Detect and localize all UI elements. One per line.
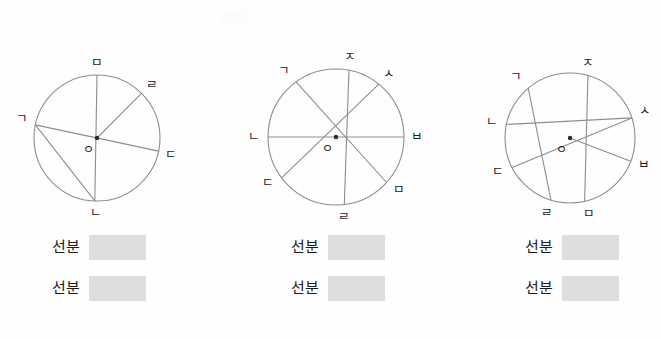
segment-ㄱ-ㄹ: [528, 88, 551, 200]
answer-row: 선분: [52, 275, 146, 301]
circle-figure-2: ㅇㅈㅅㄱㄴㅂㄷㅁㄹ: [239, 40, 439, 225]
answer-input-box[interactable]: [328, 235, 385, 260]
point-label-ㅂ: ㅂ: [411, 130, 423, 144]
answer-label: 선분: [525, 240, 553, 255]
center-label: ㅇ: [322, 142, 333, 156]
point-label-ㄱ: ㄱ: [510, 70, 522, 84]
point-label-ㄷ: ㄷ: [262, 176, 274, 190]
answer-input-box[interactable]: [328, 276, 385, 301]
answer-input-box[interactable]: [89, 276, 146, 301]
point-label-ㅁ: ㅁ: [583, 207, 595, 221]
segment-ㄱ-ㄴ: [35, 125, 94, 201]
point-label-ㄷ: ㄷ: [492, 165, 504, 179]
answer-row: 선분: [291, 234, 385, 260]
point-label-ㅁ: ㅁ: [91, 56, 103, 70]
point-label-ㄴ: ㄴ: [486, 115, 498, 129]
figure-row: ㅇㅁㄹㄱㄷㄴㅇㅈㅅㄱㄴㅂㄷㅁㄹㅇㅈㄱㅅㄴㄷㅂㄹㅁ: [0, 0, 661, 225]
answer-input-box[interactable]: [562, 235, 619, 260]
point-label-ㅅ: ㅅ: [639, 104, 651, 118]
point-label-ㄹ: ㄹ: [338, 210, 350, 224]
point-label-ㄱ: ㄱ: [278, 64, 290, 78]
center-point-dot: [95, 136, 99, 140]
worksheet-canvas: ㅇㅁㄹㄱㄷㄴㅇㅈㅅㄱㄴㅂㄷㅁㄹㅇㅈㄱㅅㄴㄷㅂㄹㅁ 선분선분선분선분선분선분: [0, 0, 661, 339]
answer-row: 선분: [525, 275, 619, 301]
answer-input-box[interactable]: [562, 276, 619, 301]
answer-label: 선분: [52, 240, 80, 255]
segment-ㄷ-ㅅ: [512, 118, 632, 168]
answers-row: 선분선분선분선분선분선분: [0, 225, 661, 339]
point-label-ㅈ: ㅈ: [582, 56, 594, 70]
segment-ㅇ-ㅂ: [570, 138, 631, 161]
center-label: ㅇ: [83, 143, 94, 157]
circle-diagram-3: ㅇㅈㄱㅅㄴㄷㅂㄹㅁ: [473, 40, 661, 225]
center-point-dot: [334, 135, 338, 139]
point-label-ㄴ: ㄴ: [248, 130, 260, 144]
segment-ㄹ-ㅇ: [97, 93, 142, 138]
point-label-ㄹ: ㄹ: [146, 78, 158, 92]
center-point-dot: [568, 136, 572, 140]
segment-ㅈ-ㅁ: [585, 76, 588, 202]
circle-diagram-1: ㅇㅁㄹㄱㄷㄴ: [0, 40, 200, 225]
answer-label: 선분: [52, 281, 80, 296]
point-label-ㅈ: ㅈ: [344, 50, 356, 64]
segment-ㄱ-ㅁ: [296, 82, 387, 183]
point-label-ㄷ: ㄷ: [165, 148, 177, 162]
answer-label: 선분: [291, 240, 319, 255]
point-label-ㄱ: ㄱ: [16, 112, 28, 126]
answer-label: 선분: [291, 281, 319, 296]
circle-diagram-2: ㅇㅈㅅㄱㄴㅂㄷㅁㄹ: [239, 40, 439, 225]
segment-ㄷ-ㅅ: [282, 84, 379, 178]
circle-figure-3: ㅇㅈㄱㅅㄴㄷㅂㄹㅁ: [473, 40, 661, 225]
answer-label: 선분: [525, 281, 553, 296]
answer-row: 선분: [525, 234, 619, 260]
point-label-ㄴ: ㄴ: [90, 206, 102, 220]
circle-figure-1: ㅇㅁㄹㄱㄷㄴ: [0, 40, 200, 225]
center-label: ㅇ: [556, 143, 567, 157]
point-label-ㅂ: ㅂ: [638, 158, 650, 172]
answer-row: 선분: [291, 275, 385, 301]
point-label-ㅅ: ㅅ: [383, 67, 395, 81]
answer-row: 선분: [52, 234, 146, 260]
point-label-ㅁ: ㅁ: [393, 183, 405, 197]
answer-input-box[interactable]: [89, 235, 146, 260]
point-label-ㄹ: ㄹ: [541, 206, 553, 220]
segment-ㄴ-ㅅ: [506, 118, 631, 125]
